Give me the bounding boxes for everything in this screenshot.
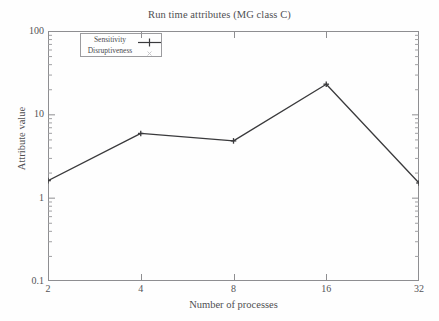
chart-title: Run time attributes (MG class C) [0, 9, 439, 20]
y-tick-label: 1 [39, 193, 44, 203]
series-sensitivity [48, 81, 419, 185]
y-axis-tick-labels: 1001010.1 [0, 0, 44, 321]
axis-major-ticks [48, 31, 419, 281]
legend-entry-sensitivity: Sensitivity [81, 34, 161, 45]
x-tick-label: 2 [33, 284, 63, 294]
data-point-marker [231, 138, 237, 144]
y-tick-label: 10 [34, 109, 44, 119]
chart-legend: Sensitivity Disruptiveness [80, 33, 162, 57]
x-tick-label: 16 [311, 284, 341, 294]
chart-figure: Run time attributes (MG class C) Attribu… [0, 0, 439, 321]
y-tick-label: 100 [29, 26, 44, 36]
data-series-layer [48, 81, 419, 185]
plot-canvas [48, 31, 419, 281]
legend-key-cross-icon [137, 45, 162, 56]
legend-label: Disruptiveness [82, 45, 138, 56]
x-axis-label: Number of processes [48, 299, 419, 310]
legend-entry-disruptiveness: Disruptiveness [81, 45, 161, 56]
x-tick-label: 32 [404, 284, 434, 294]
x-tick-label: 4 [126, 284, 156, 294]
legend-label: Sensitivity [82, 34, 138, 45]
plot-area [48, 31, 419, 281]
data-point-marker [48, 178, 51, 184]
axis-minor-ticks [48, 35, 419, 256]
legend-key-plus-icon [137, 34, 162, 45]
x-tick-label: 8 [219, 284, 249, 294]
data-point-marker [138, 131, 144, 137]
axis-frame [49, 32, 419, 281]
